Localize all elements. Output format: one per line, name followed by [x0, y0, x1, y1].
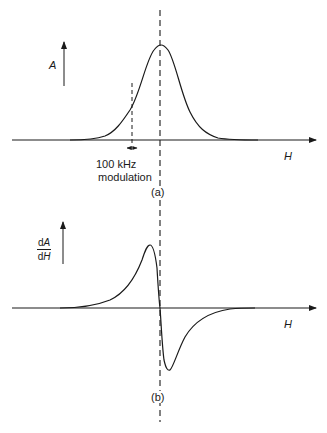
panel-a — [12, 42, 316, 152]
modulation-label-frequency: 100 kHz — [96, 158, 136, 170]
panel-a-x-axis-label: H — [284, 150, 292, 162]
panel-b — [12, 222, 316, 370]
modulation-label-text: modulation — [98, 171, 152, 183]
panel-a-y-axis-label: A — [49, 59, 56, 71]
panel-b-x-axis-label: H — [284, 318, 292, 330]
panel-b-y-axis-label: dA dH — [37, 237, 51, 262]
absorption-curve — [70, 45, 258, 140]
denominator-var: H — [43, 251, 50, 262]
panel-b-caption: (b) — [150, 391, 165, 403]
numerator-var: A — [44, 237, 51, 248]
panel-a-caption: (a) — [150, 186, 165, 198]
